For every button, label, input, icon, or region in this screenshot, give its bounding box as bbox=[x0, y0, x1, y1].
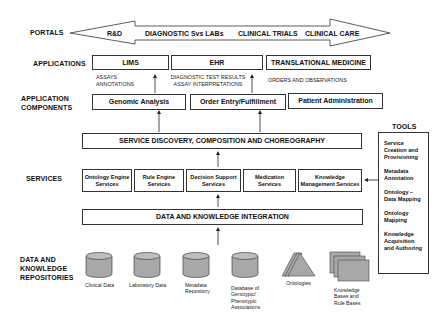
app-ehr: EHR bbox=[171, 55, 263, 70]
repo-caption-knowledge-bases: Knowledge Bases and Rule Bases bbox=[334, 287, 361, 306]
layer-label-applications: APPLICATIONS bbox=[33, 59, 86, 68]
portal-clinical-trials: CLINICAL TRIALS bbox=[238, 29, 298, 38]
portal-diagnostic-labs: DIAGNOSTIC Svs LABs bbox=[145, 29, 224, 38]
tools-title: TOOLS bbox=[392, 122, 416, 131]
tool-service-creation: Service Creation and Provisioning bbox=[384, 140, 428, 161]
note-ehr: DIAGNOSTIC TEST RESULTS ASSAY INTERPRETA… bbox=[166, 74, 250, 88]
repo-caption-ontologies: Ontologies bbox=[286, 280, 311, 286]
component-patient-administration: Patient Administration bbox=[288, 93, 383, 109]
note-translational: ORDERS AND OBSERVATIONS bbox=[268, 77, 347, 84]
note-lims: ASSAYS ANNOTATIONS bbox=[96, 74, 134, 88]
app-lims: LIMS bbox=[92, 55, 169, 70]
repo-caption-clinical-data: Clinical Data bbox=[85, 282, 114, 288]
layer-label-repositories: DATA AND KNOWLEDGE REPOSITORIES bbox=[20, 255, 74, 282]
tool-metadata-annotation: Metadata Annotation bbox=[384, 168, 428, 182]
service-rule-engine: Rule EngineServices bbox=[134, 169, 184, 192]
laboratory-data-cylinder-icon bbox=[134, 253, 160, 278]
clinical-data-cylinder-icon bbox=[86, 253, 112, 278]
service-knowledge-management: KnowledgeManagement Services bbox=[298, 169, 362, 192]
layer-label-services: SERVICES bbox=[26, 174, 62, 183]
portal-clinical-care: CLINICAL CARE bbox=[305, 29, 359, 38]
data-knowledge-integration-layer: DATA AND KNOWLEDGE INTEGRATION bbox=[82, 209, 363, 225]
metadata-repository-cylinder-icon bbox=[183, 253, 209, 278]
tools-panel: Service Creation and Provisioning Metada… bbox=[378, 132, 429, 274]
repo-caption-metadata-repository: Metadata Repository bbox=[185, 282, 210, 295]
service-medication: MedicationServices bbox=[243, 169, 296, 192]
cylinder-icons bbox=[86, 253, 258, 278]
app-translational-medicine: TRANSLATIONAL MEDICINE bbox=[266, 55, 371, 70]
tool-knowledge-acquisition: Knowledge Acquisition and Authoring bbox=[384, 231, 428, 252]
service-decision-support: Decision SupportServices bbox=[186, 169, 241, 192]
component-genomic-analysis: Genomic Analysis bbox=[92, 94, 186, 110]
component-order-entry: Order Entry/Fulfillment bbox=[190, 94, 286, 110]
layer-label-application-components: APPLICATION COMPONENTS bbox=[21, 94, 72, 112]
ontologies-triangles-icon bbox=[282, 253, 315, 276]
tool-ontology-data-mapping: Ontology – Data Mapping bbox=[384, 189, 428, 203]
repo-caption-laboratory-data: Laboratory Data bbox=[129, 282, 166, 288]
portal-rnd: R&D bbox=[107, 29, 122, 38]
genotypic-database-cylinder-icon bbox=[232, 253, 258, 278]
knowledge-bases-stacked-pages-icon bbox=[330, 252, 369, 281]
layer-label-portals: PORTALS bbox=[30, 28, 64, 37]
service-discovery-layer: SERVICE DISCOVERY, COMPOSITION AND CHORE… bbox=[82, 133, 362, 149]
repo-caption-genotypic-database: Database of Genotypic/ Phenotypic Associ… bbox=[231, 285, 260, 311]
tool-ontology-mapping: Ontology Mapping bbox=[384, 210, 428, 224]
service-ontology-engine: Ontology EngineServices bbox=[82, 169, 132, 192]
